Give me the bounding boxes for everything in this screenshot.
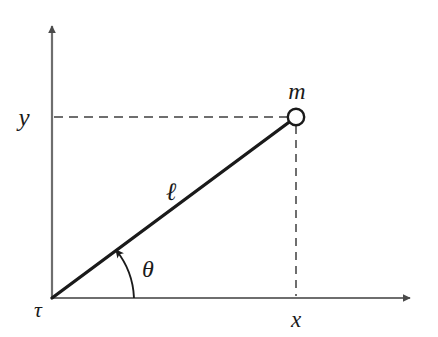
y-axis-label: y [15,104,30,131]
diagram-canvas: y x τ m ℓ θ [0,0,438,337]
angle-label: θ [142,256,154,282]
mass-bob-circle [288,109,304,125]
origin-label: τ [34,297,43,322]
angle-arc [116,250,134,298]
physics-diagram-figure: y x τ m ℓ θ [0,0,438,337]
x-axis-label: x [290,307,302,332]
mass-label: m [288,78,305,104]
pendulum-rod [52,120,292,298]
rod-length-label: ℓ [166,178,177,205]
